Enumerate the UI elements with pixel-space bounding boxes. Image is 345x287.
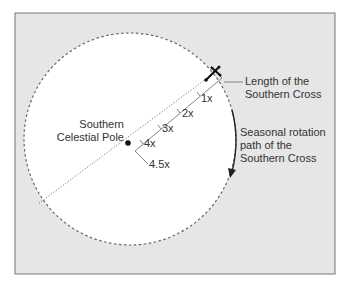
pole-label-line1: Southern xyxy=(44,118,124,131)
tick-label-4-5x: 4.5x xyxy=(149,158,170,171)
tick-label-1x: 1x xyxy=(201,92,213,105)
rotation-path-label: Seasonal rotation path of the Southern C… xyxy=(240,126,326,165)
tick-label-2x: 2x xyxy=(182,107,194,120)
pole-label-line2: Celestial Pole xyxy=(44,131,124,144)
rotation-label-line2: path of the xyxy=(240,139,326,152)
rotation-label-line1: Seasonal rotation xyxy=(240,126,326,139)
tick-label-3x: 3x xyxy=(162,122,174,135)
cross-length-label: Length of the Southern Cross xyxy=(245,75,321,101)
cross-label-line2: Southern Cross xyxy=(245,88,321,101)
tick-label-4x: 4x xyxy=(144,137,156,150)
rotation-label-line3: Southern Cross xyxy=(240,152,326,165)
pole-label: Southern Celestial Pole xyxy=(44,118,124,144)
cross-label-line1: Length of the xyxy=(245,75,321,88)
celestial-pole-dot xyxy=(125,140,131,146)
